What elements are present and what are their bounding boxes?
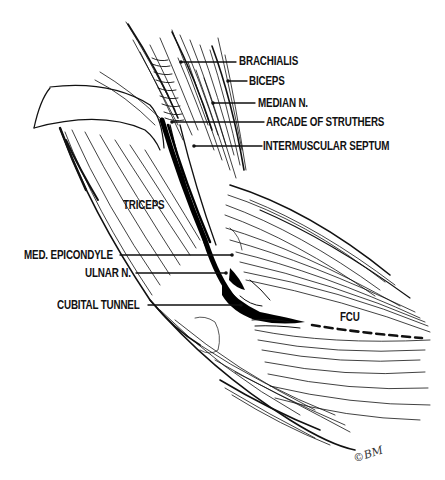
cubital-tunnel-area (222, 268, 305, 324)
label-biceps: BICEPS (249, 74, 285, 88)
skin-flap (34, 85, 164, 150)
label-arcade-of-struthers: ARCADE OF STRUTHERS (266, 115, 384, 129)
illustration-drawing (0, 0, 445, 480)
label-triceps: TRICEPS (123, 198, 164, 212)
label-cubital-tunnel: CUBITAL TUNNEL (57, 298, 140, 312)
leader-lines (120, 62, 264, 305)
fcu-dashed-line (312, 325, 422, 338)
label-intermuscular-septum: INTERMUSCULAR SEPTUM (263, 139, 389, 153)
label-median-nerve: MEDIAN N. (258, 96, 308, 110)
medial-epicondyle (195, 228, 242, 353)
anatomy-illustration: BRACHIALIS BICEPS MEDIAN N. ARCADE OF ST… (0, 0, 445, 480)
intermuscular-septum (170, 125, 216, 245)
label-ulnar-nerve: ULNAR N. (85, 266, 131, 280)
arcade-of-struthers (152, 58, 184, 121)
label-medial-epicondyle: MED. EPICONDYLE (24, 248, 113, 262)
label-brachialis: BRACHIALIS (239, 54, 298, 68)
label-fcu: FCU (340, 310, 360, 324)
